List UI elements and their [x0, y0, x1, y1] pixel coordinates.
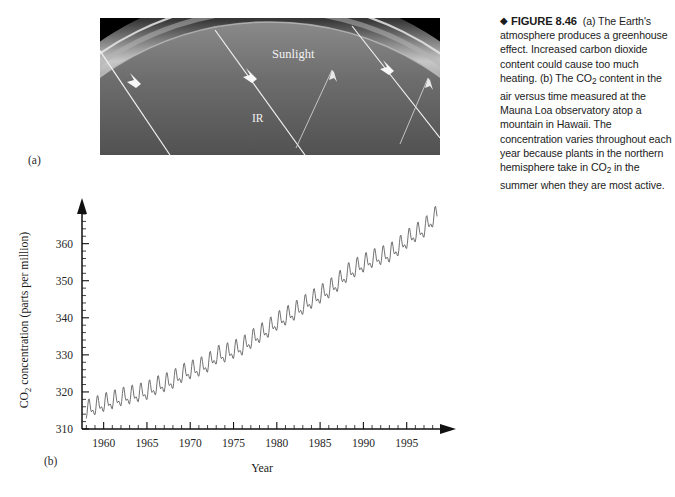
y-axis-arrowhead [77, 198, 87, 214]
y-axis-title-suffix: concentration (parts per million) [17, 232, 31, 388]
ir-label: IR [252, 112, 264, 124]
chart-svg: 310320330340350360 196019651970197519801… [0, 186, 470, 486]
greenhouse-effect-photo: Sunlight IR [100, 18, 440, 155]
y-axis-title-prefix: CO [17, 391, 31, 408]
x-axis-ticks [86, 422, 432, 429]
x-axis-tick-labels: 19601965197019751980198519901995 [92, 437, 418, 449]
caption-title: FIGURE 8.46 [511, 15, 577, 27]
co2-subscript: 2 [607, 166, 612, 175]
photo-illustration: Sunlight IR [100, 18, 440, 155]
x-tick-label: 1970 [179, 437, 202, 449]
y-axis-title: CO2 concentration (parts per million) [17, 232, 33, 409]
x-tick-label: 1990 [352, 437, 375, 449]
y-tick-label: 310 [56, 423, 74, 435]
x-tick-label: 1965 [135, 437, 158, 449]
x-tick-label: 1980 [265, 437, 288, 449]
y-tick-label: 330 [56, 349, 74, 361]
x-tick-label: 1975 [222, 437, 245, 449]
y-axis-tick-labels: 310320330340350360 [56, 238, 74, 435]
panel-letter-b: (b) [44, 455, 57, 467]
caption-body: (a) The Earth's atmosphere produces a gr… [500, 15, 671, 191]
co2-concentration-chart: 310320330340350360 196019651970197519801… [0, 186, 470, 486]
x-tick-label: 1985 [309, 437, 332, 449]
y-tick-label: 360 [56, 238, 74, 250]
y-tick-label: 320 [56, 386, 74, 398]
caption-diamond-icon: ◆ [500, 15, 508, 26]
y-tick-label: 340 [56, 312, 74, 324]
chart-axes [77, 198, 456, 434]
x-tick-label: 1960 [92, 437, 115, 449]
y-tick-label: 350 [56, 275, 74, 287]
y-axis-ticks [82, 214, 89, 429]
panel-letter-a: (a) [28, 154, 41, 166]
x-axis-title: Year [251, 461, 273, 475]
co2-data-line [86, 206, 437, 418]
figure-caption: ◆FIGURE 8.46 (a) The Earth's atmosphere … [500, 14, 675, 193]
sunlight-label: Sunlight [272, 47, 315, 61]
x-tick-label: 1995 [395, 437, 418, 449]
co2-subscript: 2 [592, 77, 597, 86]
x-axis-arrowhead [440, 424, 456, 434]
